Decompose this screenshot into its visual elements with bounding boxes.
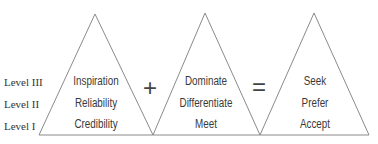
level-2-label: Level II bbox=[4, 98, 39, 110]
middle-row-2: Differentiate bbox=[180, 96, 233, 110]
level-3-label: Level III bbox=[4, 76, 43, 88]
left-row-3: Credibility bbox=[74, 117, 117, 131]
triangle-equation-diagram: Level III Level II Level I Inspiration R… bbox=[0, 0, 378, 144]
left-row-1: Inspiration bbox=[73, 74, 118, 88]
middle-row-3: Meet bbox=[195, 117, 217, 131]
right-row-3: Accept bbox=[300, 117, 330, 131]
right-row-1: Seek bbox=[304, 74, 326, 88]
equals-operator: = bbox=[252, 77, 266, 97]
left-row-2: Reliability bbox=[75, 96, 117, 110]
plus-operator: + bbox=[143, 78, 157, 98]
level-1-label: Level I bbox=[4, 120, 35, 132]
middle-row-1: Dominate bbox=[185, 74, 227, 88]
right-row-2: Prefer bbox=[302, 96, 329, 110]
